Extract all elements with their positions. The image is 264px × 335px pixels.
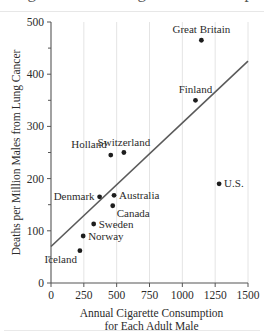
x-tick-label: 250: [75, 289, 93, 301]
data-point-australia: Australia: [112, 189, 160, 201]
point-marker: [110, 203, 115, 208]
x-tick-label: 0: [48, 289, 54, 301]
point-marker: [217, 181, 222, 186]
data-point-denmark: Denmark: [54, 190, 102, 202]
point-marker: [97, 194, 102, 199]
point-label: Norway: [88, 230, 124, 242]
x-tick-label: 1500: [237, 289, 260, 301]
point-marker: [81, 234, 86, 239]
y-axis-title: Deaths per Million Males from Lung Cance…: [10, 49, 23, 255]
y-tick-label: 0: [38, 277, 44, 289]
point-marker: [108, 153, 113, 158]
x-tick-label: 500: [108, 289, 126, 301]
data-point-great-britain: Great Britain: [173, 23, 231, 42]
scatter-plot: 0100200300400500 0250500750100012501500 …: [0, 0, 264, 335]
y-tick-label: 200: [27, 173, 45, 185]
point-label: Denmark: [54, 190, 95, 202]
point-marker: [193, 98, 198, 103]
point-label: U.S.: [224, 177, 244, 189]
point-label: Australia: [119, 189, 159, 201]
figure-container: Lung Cancer and Cigarette Consumption 01…: [0, 0, 264, 335]
point-label: Great Britain: [173, 23, 231, 35]
point-label: Finland: [179, 83, 213, 95]
point-marker: [199, 38, 204, 43]
data-point-norway: Norway: [81, 230, 124, 242]
y-tick-label: 100: [27, 225, 45, 237]
y-axis-ticks: 0100200300400500: [27, 16, 51, 289]
x-tick-label: 1250: [204, 289, 227, 301]
gridlines-group: [84, 22, 248, 283]
data-points-group: Great BritainFinlandU.S.SwitzerlandHolla…: [45, 23, 244, 264]
point-marker: [112, 193, 117, 198]
y-tick-label: 400: [27, 68, 45, 80]
point-label: Holland: [71, 138, 107, 150]
point-marker: [91, 222, 96, 227]
point-label: Sweden: [99, 218, 134, 230]
y-tick-label: 500: [27, 16, 45, 28]
point-label: Iceland: [45, 253, 78, 265]
x-axis-title-line1: Annual Cigarette Consumption: [80, 307, 224, 320]
x-tick-label: 750: [141, 289, 159, 301]
point-marker: [77, 248, 82, 253]
y-tick-label: 300: [27, 120, 45, 132]
x-axis-ticks: 0250500750100012501500: [48, 283, 260, 301]
x-axis-title-line2: for Each Adult Male: [104, 320, 198, 332]
data-point-iceland: Iceland: [45, 248, 83, 264]
x-tick-label: 1000: [171, 289, 194, 301]
data-point-sweden: Sweden: [91, 218, 134, 230]
data-point-u-s: U.S.: [217, 177, 244, 189]
point-marker: [121, 150, 126, 155]
